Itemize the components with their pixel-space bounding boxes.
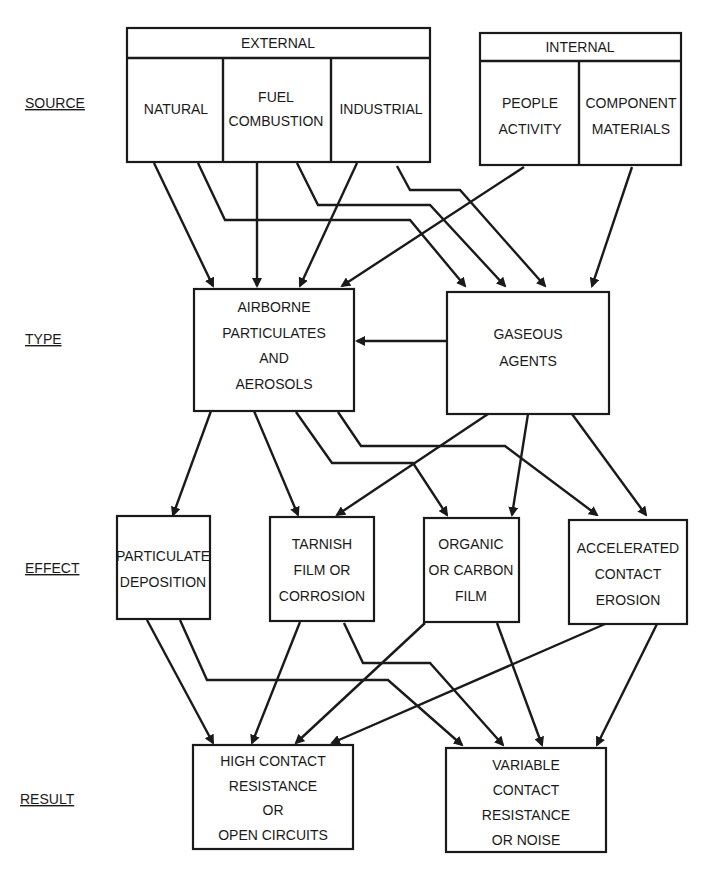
flow-diagram: SOURCE TYPE EFFECT RESULT EXTERNAL NATUR…	[0, 0, 711, 873]
external-source-group: EXTERNAL NATURAL FUEL COMBUSTION INDUSTR…	[127, 28, 430, 162]
type-to-effect-arrows	[173, 411, 646, 515]
result-high-line1: HIGH CONTACT	[220, 753, 326, 769]
effect-tarnish-box: TARNISH FILM OR CORROSION	[270, 517, 374, 621]
effect-erosion-line2: CONTACT	[595, 566, 662, 582]
source-fuel-line1: FUEL	[258, 89, 294, 105]
source-natural: NATURAL	[144, 101, 209, 117]
gaseous-line2: AGENTS	[499, 353, 557, 369]
internal-header: INTERNAL	[545, 39, 614, 55]
effect-organic-box: ORGANIC OR CARBON FILM	[424, 518, 519, 622]
effect-erosion-line1: ACCELERATED	[577, 540, 679, 556]
effect-organic-line3: FILM	[455, 588, 487, 604]
type-airborne-box: AIRBORNE PARTICULATES AND AEROSOLS	[194, 289, 354, 411]
effect-tarnish-line1: TARNISH	[292, 536, 352, 552]
source-component-line2: MATERIALS	[592, 121, 670, 137]
airborne-line3: AND	[259, 350, 289, 366]
source-people-line1: PEOPLE	[502, 95, 558, 111]
result-high-line3: OR	[263, 802, 284, 818]
internal-source-group: INTERNAL PEOPLE ACTIVITY COMPONENT MATER…	[480, 33, 681, 165]
result-variable-line2: CONTACT	[493, 782, 560, 798]
result-variable-resistance-box: VARIABLE CONTACT RESISTANCE OR NOISE	[446, 748, 606, 852]
row-label-type: TYPE	[25, 331, 62, 347]
source-industrial: INDUSTRIAL	[339, 101, 422, 117]
result-variable-line4: OR NOISE	[492, 832, 560, 848]
effect-to-result-arrows	[147, 620, 657, 745]
airborne-line1: AIRBORNE	[237, 299, 310, 315]
result-variable-line3: RESISTANCE	[482, 807, 570, 823]
effect-particulate-box: PARTICULATE DEPOSITION	[116, 516, 210, 619]
result-high-line2: RESISTANCE	[229, 778, 317, 794]
effect-erosion-box: ACCELERATED CONTACT EROSION	[569, 520, 687, 624]
effect-organic-line1: ORGANIC	[438, 536, 503, 552]
effect-erosion-line3: EROSION	[596, 592, 661, 608]
external-header: EXTERNAL	[241, 35, 315, 51]
airborne-line2: PARTICULATES	[222, 325, 325, 341]
effect-particulate-line2: DEPOSITION	[120, 574, 206, 590]
effect-tarnish-line2: FILM OR	[294, 562, 351, 578]
row-label-result: RESULT	[20, 791, 75, 807]
source-component-line1: COMPONENT	[586, 95, 677, 111]
type-gaseous-box: GASEOUS AGENTS	[447, 292, 609, 414]
effect-tarnish-line3: CORROSION	[279, 588, 365, 604]
row-label-source: SOURCE	[25, 95, 85, 111]
result-variable-line1: VARIABLE	[492, 757, 559, 773]
effect-organic-line2: OR CARBON	[429, 562, 514, 578]
source-to-type-arrows	[154, 163, 632, 286]
result-high-resistance-box: HIGH CONTACT RESISTANCE OR OPEN CIRCUITS	[193, 745, 353, 849]
source-fuel-line2: COMBUSTION	[229, 113, 324, 129]
result-high-line4: OPEN CIRCUITS	[218, 827, 328, 843]
source-people-line2: ACTIVITY	[498, 121, 562, 137]
airborne-line4: AEROSOLS	[235, 376, 312, 392]
effect-particulate-line1: PARTICULATE	[116, 548, 210, 564]
gaseous-line1: GASEOUS	[493, 326, 562, 342]
row-label-effect: EFFECT	[25, 560, 80, 576]
